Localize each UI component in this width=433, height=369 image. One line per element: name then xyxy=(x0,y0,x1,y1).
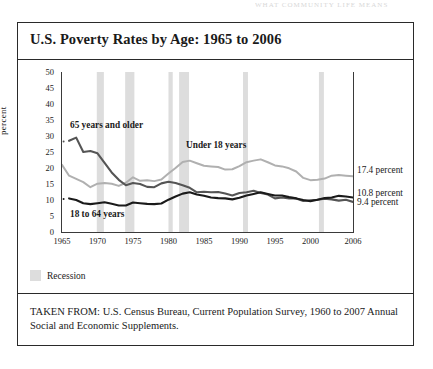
chart-title: U.S. Poverty Rates by Age: 1965 to 2006 xyxy=(30,31,282,48)
y-tick-25: 25 xyxy=(28,148,54,156)
line-18-to-64-years xyxy=(69,192,353,205)
annotation-65-and-older: 65 years and older xyxy=(70,120,143,130)
y-tick-35: 35 xyxy=(28,116,54,124)
y-axis-tick-labels: 05101520253035404550 xyxy=(28,72,54,232)
x-tick-1985: 1985 xyxy=(195,236,212,246)
recession-bands xyxy=(97,72,324,232)
recession-legend-label: Recession xyxy=(47,271,86,281)
end-label-under-18: 17.4 percent xyxy=(357,165,403,175)
y-tick-30: 30 xyxy=(28,132,54,140)
x-tick-1965: 1965 xyxy=(54,236,71,246)
y-tick-50: 50 xyxy=(28,68,54,76)
y-tick-45: 45 xyxy=(28,84,54,92)
x-tick-1980: 1980 xyxy=(160,236,177,246)
y-tick-20: 20 xyxy=(28,164,54,172)
source-note: TAKEN FROM: U.S. Census Bureau, Current … xyxy=(30,305,400,333)
chart-plot-area xyxy=(62,72,353,232)
series-start-marker xyxy=(63,140,65,142)
page-running-header: WHAT COMMUNITY LIFE MEANS xyxy=(255,1,425,9)
annotation-18-to-64: 18 to 64 years xyxy=(70,209,124,219)
y-axis-title: percent xyxy=(0,106,8,135)
y-tick-15: 15 xyxy=(28,180,54,188)
recession-band-0 xyxy=(97,72,104,232)
recession-legend-swatch xyxy=(30,270,41,281)
y-tick-40: 40 xyxy=(28,100,54,108)
x-tick-1995: 1995 xyxy=(266,236,283,246)
recession-band-4 xyxy=(243,72,248,232)
title-divider-top xyxy=(18,59,413,60)
annotation-under-18: Under 18 years xyxy=(186,140,246,150)
x-axis-line xyxy=(61,232,354,233)
recession-band-5 xyxy=(319,72,324,232)
y-tick-10: 10 xyxy=(28,196,54,204)
plot-right-border xyxy=(353,72,354,233)
x-tick-1970: 1970 xyxy=(89,236,106,246)
y-tick-5: 5 xyxy=(28,212,54,220)
end-label-65-and-older: 9.4 percent xyxy=(357,197,398,207)
x-tick-2006: 2006 xyxy=(345,236,362,246)
series-start-marker xyxy=(63,198,65,200)
recession-band-3 xyxy=(179,72,189,232)
title-divider-bottom xyxy=(18,293,413,294)
recession-band-2 xyxy=(168,72,172,232)
x-tick-1990: 1990 xyxy=(231,236,248,246)
x-tick-2000: 2000 xyxy=(302,236,319,246)
x-tick-1975: 1975 xyxy=(124,236,141,246)
y-tick-0: 0 xyxy=(28,228,54,236)
recession-band-1 xyxy=(125,72,134,232)
